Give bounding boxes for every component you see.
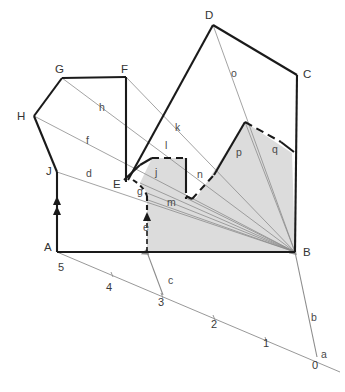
scale-tick-4 bbox=[111, 272, 113, 277]
segment-label-b: b bbox=[311, 311, 317, 323]
vertex-label-A: A bbox=[44, 241, 52, 253]
geometric-diagram: A B C D E F G H J d f h k o l j n p q g … bbox=[0, 0, 345, 392]
segment-label-e: e bbox=[143, 221, 149, 233]
segment-label-q: q bbox=[272, 143, 278, 155]
segment-label-l: l bbox=[165, 139, 167, 151]
vertex-label-D: D bbox=[205, 9, 213, 21]
segment-label-d: d bbox=[86, 167, 92, 179]
segment-label-h: h bbox=[99, 101, 105, 113]
segment-label-a: a bbox=[321, 348, 327, 360]
segment-label-n: n bbox=[197, 168, 203, 180]
vector-c-line bbox=[147, 252, 163, 295]
edge-G-F bbox=[62, 77, 126, 78]
segment-label-f: f bbox=[86, 134, 89, 146]
scale-label-4: 4 bbox=[106, 281, 112, 293]
segment-label-k: k bbox=[175, 121, 181, 133]
edge-E-D bbox=[128, 25, 213, 180]
vertex-label-E: E bbox=[113, 178, 121, 190]
segment-label-g: g bbox=[137, 185, 143, 197]
segment-label-c: c bbox=[168, 274, 173, 286]
edge-C-B bbox=[295, 75, 297, 252]
scale-label-3: 3 bbox=[158, 296, 164, 308]
scale-label-0: 0 bbox=[312, 359, 318, 371]
segment-label-j: j bbox=[154, 166, 157, 178]
scale-axis-line bbox=[57, 252, 340, 372]
scale-label-2: 2 bbox=[211, 318, 217, 330]
vector-b-line bbox=[295, 252, 317, 357]
vertex-label-C: C bbox=[303, 68, 311, 80]
segment-label-m: m bbox=[167, 196, 176, 208]
segment-label-o: o bbox=[231, 67, 237, 79]
vertex-label-H: H bbox=[17, 110, 25, 122]
scale-label-5: 5 bbox=[58, 261, 64, 273]
edge-D-C bbox=[213, 25, 297, 75]
vertex-label-J: J bbox=[46, 165, 52, 177]
edge-H-J bbox=[34, 116, 57, 172]
vertex-label-F: F bbox=[121, 63, 128, 75]
segment-label-p: p bbox=[236, 146, 242, 158]
scale-axis-group bbox=[57, 252, 340, 372]
vertex-label-B: B bbox=[303, 246, 311, 258]
edge-H-G bbox=[34, 78, 62, 116]
diagram-canvas: A B C D E F G H J d f h k o l j n p q g … bbox=[0, 0, 345, 392]
scale-label-1: 1 bbox=[263, 337, 269, 349]
scale-number-labels-group: 5 4 3 2 1 0 bbox=[58, 261, 318, 371]
vertex-label-G: G bbox=[55, 63, 64, 75]
